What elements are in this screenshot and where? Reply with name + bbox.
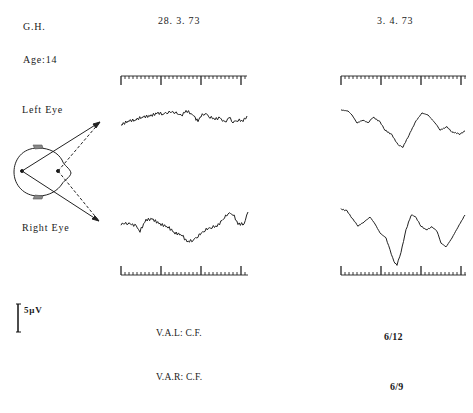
vep-figure bbox=[0, 0, 473, 413]
head-diagram-icon bbox=[14, 122, 100, 221]
trace-left-eye-28-3-73 bbox=[121, 110, 247, 125]
vep-traces bbox=[121, 110, 465, 266]
time-scale-bars bbox=[121, 76, 466, 275]
amplitude-scale-bar bbox=[16, 304, 21, 332]
trace-right-eye-3-4-73 bbox=[341, 209, 465, 266]
trace-right-eye-28-3-73 bbox=[121, 212, 248, 242]
trace-left-eye-3-4-73 bbox=[341, 110, 465, 148]
